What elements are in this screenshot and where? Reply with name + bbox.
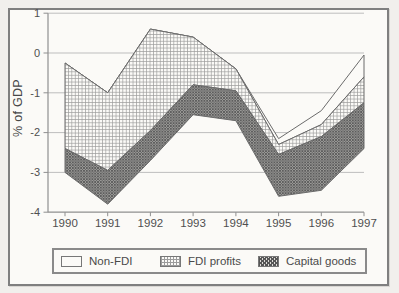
svg-text:1995: 1995 [266,217,292,229]
svg-text:1992: 1992 [138,217,164,229]
y-axis-title: % of GDP [11,63,27,153]
legend-item-fdi-profits: FDI profits [160,250,241,272]
svg-text:-1: -1 [30,87,40,99]
svg-text:1994: 1994 [223,217,249,229]
svg-text:1990: 1990 [52,217,78,229]
legend-swatch-non-fdi [61,256,82,267]
legend-label: Capital goods [286,255,356,267]
svg-text:-3: -3 [30,166,40,178]
legend-label: Non-FDI [89,255,132,267]
legend-item-capital-goods: Capital goods [258,250,356,272]
legend-swatch-capital-goods [258,256,279,267]
svg-text:1993: 1993 [180,217,206,229]
legend-swatch-fdi-profits [160,256,181,267]
svg-text:1991: 1991 [95,217,121,229]
svg-text:-4: -4 [30,206,40,218]
svg-text:1996: 1996 [309,217,335,229]
legend-item-non-fdi: Non-FDI [61,250,132,272]
screenshot-root: 10-1-2-3-4199019911992199319941995199619… [0,0,399,293]
svg-text:0: 0 [34,47,40,59]
svg-text:1: 1 [34,7,40,19]
legend: Non-FDI FDI profits Capital goods [52,248,367,274]
chart-bands [65,29,364,204]
svg-text:1997: 1997 [351,217,377,229]
area-chart: 10-1-2-3-4199019911992199319941995199619… [0,0,399,244]
svg-text:-2: -2 [30,126,40,138]
legend-label: FDI profits [188,255,241,267]
